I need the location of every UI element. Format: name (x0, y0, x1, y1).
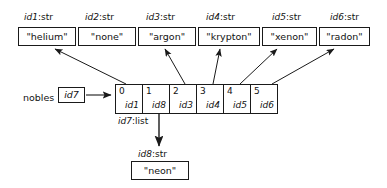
list-cell-5: 5 id6 (251, 85, 277, 113)
string-object-argon: "argon" (138, 27, 196, 46)
list-cell-ref: id1 (125, 101, 139, 110)
type-label-id7: id7:list (118, 117, 148, 126)
type-label-id2: id2:str (85, 13, 114, 22)
list-object-id7: 0 id1 1 id8 2 id3 3 id4 4 id5 5 id6 (115, 84, 278, 114)
type-label-id6: id6:str (330, 13, 359, 22)
list-cell-index: 1 (146, 87, 152, 96)
list-cell-ref: id5 (233, 101, 247, 110)
variable-name-nobles: nobles (23, 93, 54, 103)
list-cell-index: 4 (227, 87, 233, 96)
arrow-cell2-to-argon (165, 49, 185, 84)
list-cell-ref: id8 (152, 101, 166, 110)
list-cell-4: 4 id5 (224, 85, 251, 113)
list-cell-index: 5 (254, 87, 260, 96)
arrow-cell3-to-krypton (213, 49, 220, 84)
variable-ref-box-id7: id7 (58, 87, 85, 103)
arrow-cell4-to-xenon (240, 49, 277, 84)
list-cell-3: 3 id4 (197, 85, 224, 113)
string-object-helium: "helium" (18, 27, 76, 46)
string-object-none: "none" (78, 27, 136, 46)
string-object-neon: "neon" (131, 161, 189, 180)
list-cell-2: 2 id3 (170, 85, 197, 113)
list-cell-0: 0 id1 (116, 85, 143, 113)
list-cell-1: 1 id8 (143, 85, 170, 113)
list-cell-ref: id4 (206, 101, 220, 110)
type-label-id1: id1:str (24, 13, 53, 22)
string-object-krypton: "krypton" (198, 27, 260, 46)
list-cell-index: 3 (200, 87, 206, 96)
string-object-radon: "radon" (319, 27, 370, 46)
diagram-canvas: id1:str id2:str id3:str id4:str id5:str … (0, 0, 387, 188)
type-label-id5: id5:str (272, 13, 301, 22)
arrow-cell5-to-radon (272, 49, 334, 84)
list-cell-index: 0 (119, 87, 125, 96)
type-label-id3: id3:str (146, 13, 175, 22)
arrow-cell0-to-helium (55, 49, 126, 84)
type-label-id8: id8:str (138, 150, 167, 159)
list-cell-ref: id3 (179, 101, 193, 110)
type-label-id4: id4:str (206, 13, 235, 22)
string-object-xenon: "xenon" (262, 27, 317, 46)
list-cell-index: 2 (173, 87, 179, 96)
list-cell-ref: id6 (260, 101, 274, 110)
